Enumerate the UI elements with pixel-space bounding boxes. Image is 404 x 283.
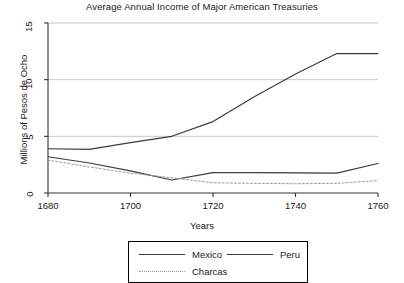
gridlines	[48, 23, 378, 136]
legend-label: Charcas	[192, 266, 227, 277]
data-series	[48, 54, 378, 184]
chart-figure: Average Annual Income of Major American …	[0, 0, 404, 283]
legend-item-mexico: Mexico	[139, 246, 222, 262]
legend-item-peru: Peru	[227, 246, 300, 262]
legend-label: Mexico	[192, 249, 222, 260]
axis-lines	[48, 23, 378, 193]
legend-item-charcas: Charcas	[139, 263, 227, 279]
legend-swatch-dotted-icon	[139, 271, 185, 272]
legend-swatch-line-icon	[227, 254, 273, 255]
tick-marks	[44, 23, 378, 197]
legend-label: Peru	[280, 249, 300, 260]
series-line-charcas	[48, 160, 378, 184]
chart-legend: Mexico Peru Charcas	[128, 241, 308, 283]
legend-swatch-line-icon	[139, 254, 185, 255]
series-line-mexico	[48, 54, 378, 150]
